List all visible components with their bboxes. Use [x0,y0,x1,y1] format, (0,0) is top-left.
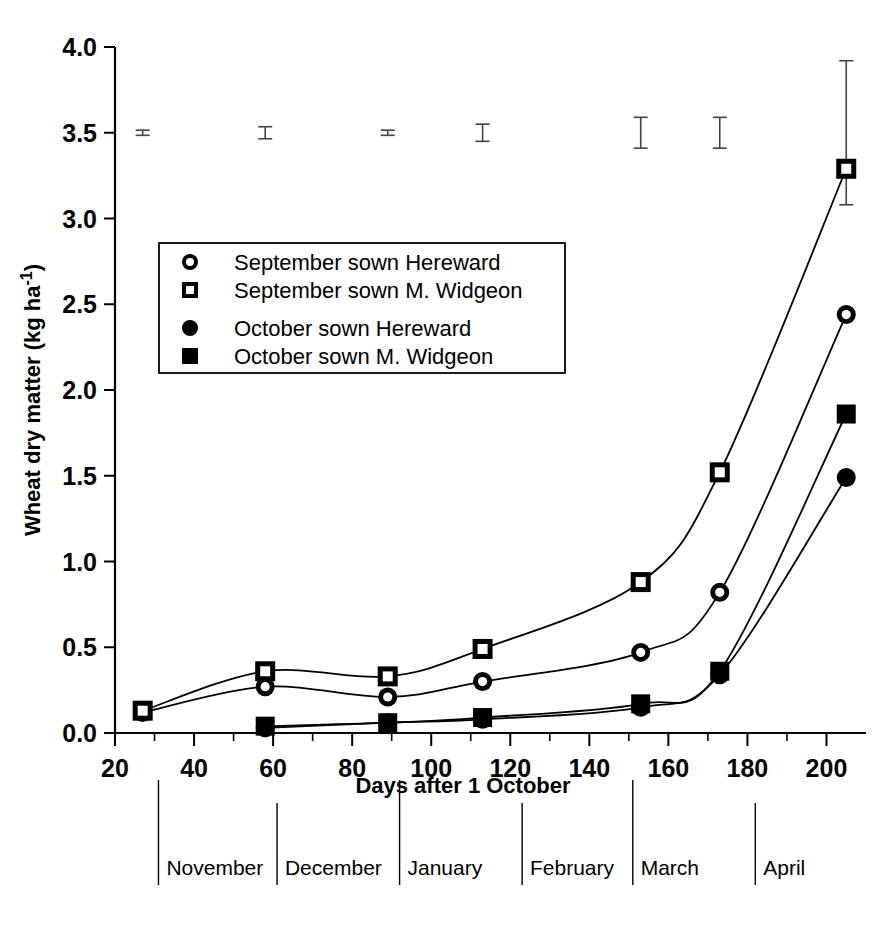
legend-label-0: September sown Hereward [234,250,501,275]
legend-filled-circle-icon [182,320,198,336]
series-1-point-6-marker-inner [841,164,851,174]
x-tick-label: 20 [101,754,129,782]
y-tick-label: 3.5 [62,119,97,147]
series-0-point-3-marker-inner [478,677,487,686]
series-1-point-1-marker-inner [260,666,270,676]
legend-filled-square-icon [182,348,198,364]
y-axis-title-superscript: -1 [18,271,35,285]
legend-label-1: September sown M. Widgeon [234,278,523,303]
series-3-point-5-marker [710,662,729,681]
y-tick-label: 0.5 [62,633,97,661]
x-tick-label: 160 [648,754,690,782]
y-tick-label: 0.0 [62,719,97,747]
series-1-point-5-marker-inner [715,467,725,477]
svg-text:Wheat dry matter (kg ha-1): Wheat dry matter (kg ha-1) [18,264,45,536]
wheat-dry-matter-line-chart: 0.00.51.01.52.02.53.03.54.0 204060801001… [0,0,889,926]
series-1-point-3-marker-inner [478,644,488,654]
series-0-point-4-marker-inner [636,648,645,657]
y-axis-title: Wheat dry matter (kg ha-1) [18,264,45,536]
month-label-march: March [641,856,699,879]
y-axis-title-main: Wheat dry matter (kg ha [20,285,45,536]
x-tick-label: 40 [180,754,208,782]
x-axis-title: Days after 1 October [355,773,571,798]
y-tick-label: 1.5 [62,462,97,490]
series-0-point-5-marker-inner [715,588,724,597]
series-1-point-4-marker-inner [636,577,646,587]
series-3-point-3-marker [473,708,492,727]
y-axis-tick-labels: 0.00.51.01.52.02.53.03.54.0 [62,33,97,747]
y-axis-title-tail: ) [20,264,45,271]
chart-legend: September sown HerewardSeptember sown M.… [159,243,565,373]
series-2-point-6-marker [837,468,856,487]
series-3-point-4-marker [631,694,650,713]
x-tick-label: 200 [806,754,848,782]
series-1-point-0-marker-inner [138,706,148,716]
month-label-january: January [407,856,482,879]
series-1-point-2-marker-inner [383,671,393,681]
y-tick-label: 2.5 [62,290,97,318]
month-label-december: December [285,856,382,879]
legend-label-3: October sown M. Widgeon [234,344,493,369]
legend-open-circle-icon-inner [186,258,194,266]
x-tick-label: 60 [259,754,287,782]
series-3-point-1-marker [256,717,275,736]
legend-open-square-icon-inner [186,286,194,294]
legend-label-2: October sown Hereward [234,316,471,341]
legend-entry-1: September sown M. Widgeon [182,278,523,303]
y-tick-label: 3.0 [62,205,97,233]
month-label-february: February [530,856,615,879]
series-0-point-1-marker-inner [261,682,270,691]
series-0-point-2-marker-inner [383,692,392,701]
y-tick-label: 4.0 [62,33,97,61]
series-3-point-6-marker [837,405,856,424]
series-0-point-6-marker-inner [842,310,851,319]
x-tick-label: 140 [568,754,610,782]
x-tick-label: 180 [727,754,769,782]
month-label-april: April [763,856,805,879]
chart-figure: 0.00.51.01.52.02.53.03.54.0 204060801001… [0,0,889,926]
y-tick-label: 1.0 [62,548,97,576]
series-3-point-2-marker [378,713,397,732]
y-tick-label: 2.0 [62,376,97,404]
month-label-november: November [166,856,263,879]
